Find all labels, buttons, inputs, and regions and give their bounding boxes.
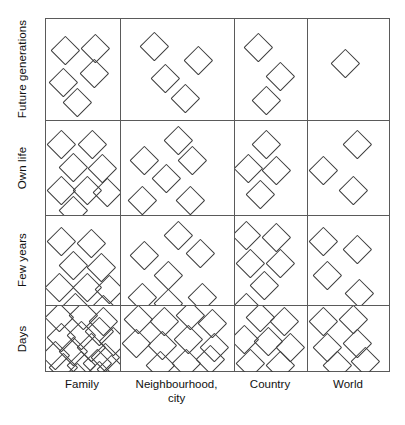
column-label-text: Family	[65, 378, 99, 390]
column-label-text: Country	[250, 378, 290, 390]
diamond-marker	[243, 32, 272, 61]
diamond-marker	[127, 185, 156, 214]
diamond-marker	[173, 324, 202, 353]
diamond-marker	[139, 31, 168, 60]
diamond-marker	[265, 61, 294, 90]
diamond-marker	[153, 260, 182, 289]
diamond-marker	[342, 129, 371, 158]
column-label-family: Family	[45, 378, 119, 392]
matrix-cell[interactable]	[46, 216, 120, 305]
column-label-text: Neighbourhood,	[136, 378, 218, 390]
row-label-few-years: Few years	[0, 215, 44, 305]
diamond-marker	[308, 306, 337, 335]
matrix-cell[interactable]	[235, 121, 307, 215]
diamond-marker	[235, 348, 264, 372]
matrix-cell[interactable]	[121, 121, 234, 215]
diamond-marker	[170, 83, 199, 112]
diamond-marker	[261, 155, 290, 184]
diamond-marker	[245, 179, 274, 208]
column-label-country: Country	[234, 378, 306, 392]
diamond-marker	[338, 306, 367, 334]
diamond-marker	[187, 282, 216, 305]
matrix-cell[interactable]	[46, 19, 120, 120]
column-label-neighbourhood-city: Neighbourhood, city	[120, 378, 233, 405]
row-label-text: Few years	[16, 233, 28, 287]
diamond-marker	[235, 292, 261, 305]
matrix-cell[interactable]	[235, 19, 307, 120]
column-labels-axis: Family Neighbourhood, city Country World	[45, 378, 390, 420]
matrix-cell[interactable]	[308, 19, 390, 120]
diamond-marker	[344, 278, 373, 305]
column-label-world: World	[307, 378, 389, 392]
matrix-cell[interactable]	[121, 19, 234, 120]
diamond-marker	[79, 58, 108, 87]
diamond-marker	[50, 35, 79, 64]
diamond-marker	[163, 220, 192, 249]
matrix-cell[interactable]	[46, 121, 120, 215]
diamond-marker	[235, 153, 263, 182]
diamond-marker	[150, 63, 179, 92]
diamond-marker	[145, 350, 174, 372]
diamond-marker	[151, 163, 180, 192]
matrix-cell[interactable]	[308, 306, 390, 372]
column-label-text: World	[333, 378, 363, 390]
row-label-text: Future generations	[16, 20, 28, 118]
matrix-cell[interactable]	[121, 216, 234, 305]
diamond-marker	[185, 238, 214, 267]
matrix-cell[interactable]	[308, 216, 390, 305]
diamond-marker	[338, 175, 367, 204]
diamond-marker	[308, 226, 337, 255]
diamond-marker	[251, 129, 280, 158]
diamond-marker	[121, 328, 150, 357]
row-label-days: Days	[0, 305, 44, 372]
matrix-cell[interactable]	[46, 306, 120, 372]
diamond-marker	[175, 185, 204, 214]
matrix-cell[interactable]	[121, 306, 234, 372]
diamond-marker	[312, 260, 341, 289]
diamond-marker	[149, 306, 178, 335]
row-label-text: Days	[16, 325, 28, 352]
row-labels-axis: Future generations Own life Few years Da…	[0, 18, 44, 372]
diamond-marker	[251, 85, 280, 114]
column-label-text-line2: city	[120, 392, 233, 406]
diamond-marker	[342, 234, 371, 263]
matrix-diagram: Future generations Own life Few years Da…	[0, 0, 405, 425]
diamond-marker	[153, 288, 182, 305]
matrix-cell[interactable]	[235, 306, 307, 372]
row-label-text: Own life	[16, 146, 28, 188]
matrix-cell[interactable]	[308, 121, 390, 215]
diamond-marker	[129, 145, 158, 174]
row-label-future-generations: Future generations	[0, 18, 44, 120]
diamond-marker	[92, 177, 120, 206]
diamond-marker	[330, 48, 359, 77]
matrix-grid	[45, 18, 390, 372]
diamond-marker	[235, 220, 261, 249]
diamond-marker	[308, 155, 337, 184]
matrix-cell[interactable]	[235, 216, 307, 305]
diamond-marker	[261, 222, 290, 251]
diamond-marker	[129, 240, 158, 269]
diamond-marker	[249, 270, 278, 299]
row-label-own-life: Own life	[0, 120, 44, 215]
diamond-marker	[80, 33, 109, 62]
diamond-marker	[183, 45, 212, 74]
diamond-marker	[127, 282, 156, 305]
diamond-marker	[265, 248, 294, 277]
